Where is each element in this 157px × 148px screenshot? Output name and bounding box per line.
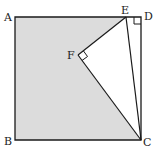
label-f: F: [67, 49, 75, 62]
shaded-region: [15, 17, 141, 140]
label-b: B: [4, 135, 12, 148]
geometry-diagram: A B C D E F: [0, 0, 157, 148]
label-a: A: [3, 11, 13, 24]
label-c: C: [143, 136, 151, 148]
right-angle-marker-d: [134, 17, 141, 24]
segment-ec: [126, 17, 141, 140]
diagram-canvas: A B C D E F: [0, 0, 157, 148]
label-d: D: [144, 10, 153, 23]
right-angle-marker-f: [82, 51, 88, 61]
label-e: E: [121, 4, 129, 17]
